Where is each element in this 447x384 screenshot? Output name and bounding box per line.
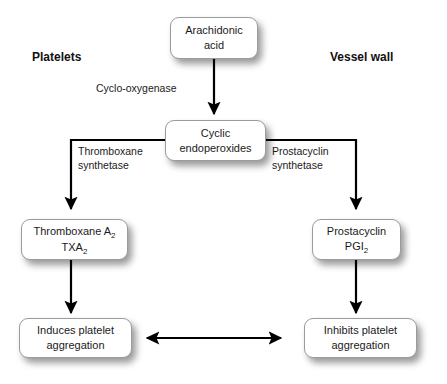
node-thromboxane-a2-line2-text: TXA [62, 241, 83, 253]
column-header-vessel-wall: Vessel wall [330, 50, 393, 64]
node-prostacyclin-pgi2-line2-subscript: 2 [364, 246, 368, 255]
pathway-diagram: Platelets Vessel wall Arachidonic acid C… [0, 0, 447, 384]
node-thromboxane-a2-line2-subscript: 2 [83, 247, 87, 256]
node-thromboxane-a2-line1-subscript: 2 [111, 231, 115, 240]
edge-label-prostacyclin-synthetase: Prostacyclin synthetase [272, 144, 329, 172]
edge-label-thromboxane-synthetase: Thromboxane synthetase [78, 144, 143, 172]
node-prostacyclin-pgi2-line1: Prostacyclin [327, 224, 386, 239]
node-arachidonic-acid[interactable]: Arachidonic acid [170, 17, 258, 59]
node-induces-platelet-aggregation-line1: Induces platelet [37, 323, 114, 338]
edge-label-thromboxane-synthetase-line1: Thromboxane [78, 144, 143, 158]
edge-label-prostacyclin-synthetase-line1: Prostacyclin [272, 144, 329, 158]
edge-label-prostacyclin-synthetase-line2: synthetase [272, 158, 329, 172]
edge-label-thromboxane-synthetase-line2: synthetase [78, 158, 143, 172]
node-arachidonic-acid-line1: Arachidonic [185, 23, 242, 38]
node-thromboxane-a2-line2: TXA2 [62, 240, 88, 256]
node-inhibits-platelet-aggregation-line1: Inhibits platelet [324, 323, 397, 338]
node-thromboxane-a2-line1-text: Thromboxane A [33, 225, 111, 237]
node-cyclic-endoperoxides-line1: Cyclic [201, 126, 230, 141]
node-thromboxane-a2[interactable]: Thromboxane A2 TXA2 [21, 219, 128, 260]
node-inhibits-platelet-aggregation-line2: aggregation [331, 338, 389, 353]
node-prostacyclin-pgi2-line2-text: PGI [345, 240, 364, 252]
node-induces-platelet-aggregation[interactable]: Induces platelet aggregation [19, 318, 132, 358]
node-induces-platelet-aggregation-line2: aggregation [46, 338, 104, 353]
edge-label-cyclo-oxygenase-text: Cyclo-oxygenase [96, 81, 177, 95]
node-thromboxane-a2-line1: Thromboxane A2 [33, 224, 115, 240]
node-cyclic-endoperoxides-line2: endoperoxides [179, 141, 251, 156]
node-arachidonic-acid-line2: acid [204, 38, 224, 53]
node-prostacyclin-pgi2[interactable]: Prostacyclin PGI2 [312, 219, 401, 260]
edge-label-cyclo-oxygenase: Cyclo-oxygenase [96, 81, 177, 95]
node-inhibits-platelet-aggregation[interactable]: Inhibits platelet aggregation [304, 318, 417, 358]
column-header-platelets: Platelets [32, 50, 81, 64]
node-prostacyclin-pgi2-line2: PGI2 [345, 239, 368, 255]
node-cyclic-endoperoxides[interactable]: Cyclic endoperoxides [165, 120, 266, 161]
